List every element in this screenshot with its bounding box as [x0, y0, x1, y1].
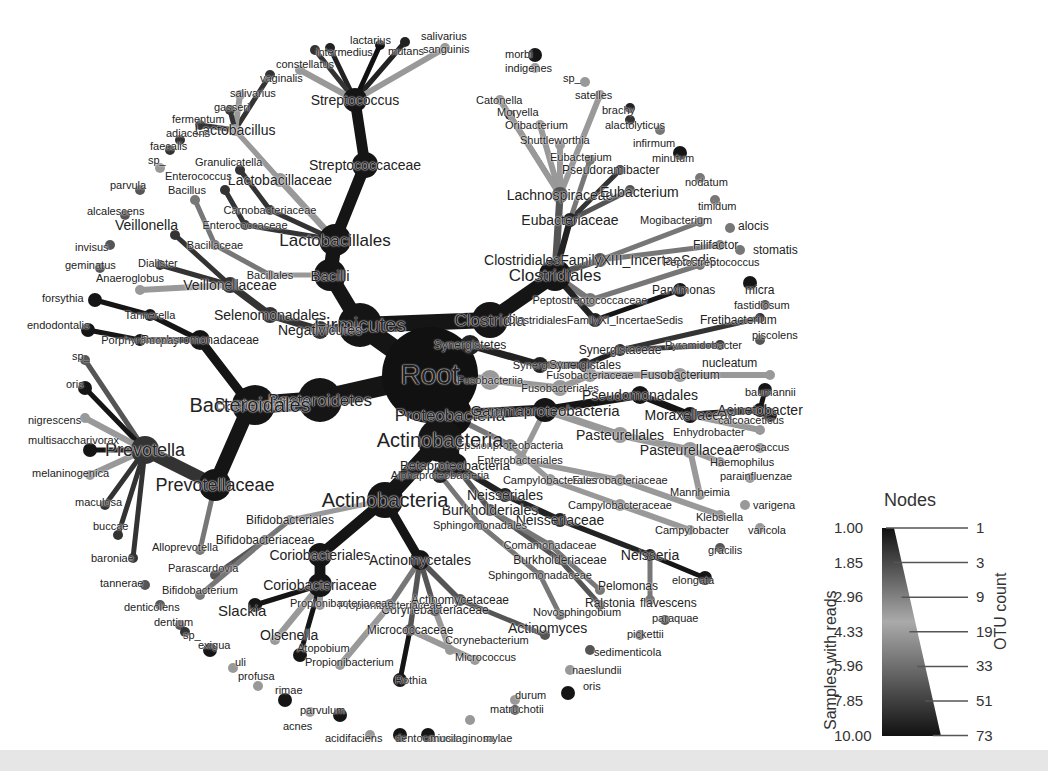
node-label: Actinobacteria — [377, 430, 504, 450]
leaf-label: acnes — [283, 721, 312, 732]
leaf-label: sp_ — [72, 351, 90, 362]
leaf-label: Olsenella — [260, 628, 318, 642]
leaf-label: infirmum — [633, 138, 675, 149]
node-label: Actinomycetales — [369, 553, 471, 567]
leaf-label: minutum — [652, 153, 694, 164]
leaf-label: Haemophilus — [710, 457, 774, 468]
node-label: Bacilli — [310, 268, 349, 283]
node-label: Sphingomonadaceae — [488, 570, 592, 581]
leaf-label: tannerae — [100, 578, 143, 589]
leaf-label: vaginalis — [260, 73, 303, 84]
leaf-label: melaninogenica — [32, 468, 109, 479]
leaf-label: Pelomonas — [598, 580, 658, 592]
node-label: Synergistaceae — [579, 344, 662, 356]
leaf-label: flavescens — [640, 597, 697, 609]
node-label: Lachnospiraceae — [507, 188, 614, 202]
leaf-label: Parvimonas — [652, 284, 715, 296]
leaf-label: fermentum — [172, 114, 225, 125]
node-label: Pseudomonadales — [582, 388, 698, 402]
node-label: Pasteurellaceae — [640, 443, 740, 457]
leaf-label: Atopobium — [297, 643, 350, 654]
leaf-label: Fretibacterium — [700, 314, 777, 326]
node-label: Lactobacillales — [279, 232, 391, 249]
leaf-label: forsythia — [42, 293, 84, 304]
leaf-label: Veillonella — [115, 218, 178, 232]
leaf-label: sp_ — [563, 73, 581, 84]
leaf-label: Bacillus — [168, 185, 206, 196]
leaf-label: sp_ — [148, 155, 166, 166]
leaf-label: mylae — [483, 733, 512, 744]
leaf-label: uli — [235, 657, 246, 668]
leaf-label: Dialister — [138, 258, 178, 269]
leaf-label: brachy — [602, 105, 635, 116]
node-label: Root — [400, 361, 459, 389]
leaf-label: baroniae — [91, 553, 134, 564]
node-label: Comamonadaceae — [504, 540, 597, 551]
legend-right-tick: 3 — [976, 554, 984, 571]
leaf-label: gasseri — [214, 102, 249, 113]
leaf-label: Micrococcus — [455, 652, 516, 663]
node-label: Alphaproteobacteria — [391, 470, 489, 481]
node-label: Burkholderiales — [442, 503, 539, 517]
legend-right-tick: 1 — [976, 519, 984, 536]
leaf-label: buccae — [93, 521, 128, 532]
leaf-label: denticolens — [124, 602, 180, 613]
node-label: Bifidobacteriales — [246, 514, 334, 526]
leaf-label: elongata — [672, 575, 714, 586]
legend-left-tick: 1.00 — [834, 519, 863, 536]
leaf-label: constellatus — [276, 59, 334, 70]
leaf-label: Propionibacterium — [305, 657, 394, 668]
leaf-label: Moryella — [497, 107, 539, 118]
leaf-label: Slackia — [218, 603, 266, 618]
leaf-label: matruchotii — [490, 704, 544, 715]
leaf-label: naeslundii — [572, 665, 622, 676]
legend-right-tick: 51 — [976, 692, 993, 709]
node-label: Neisseria — [621, 548, 679, 562]
leaf-label: acidifaciens — [325, 733, 382, 744]
node-label: Sphingomonadales — [433, 520, 527, 531]
leaf-label: calcoaceticus — [718, 415, 784, 426]
leaf-label: salivarius — [421, 31, 467, 42]
node-label: Lactobacillaceae — [228, 173, 332, 187]
leaf-label: Rothia — [395, 675, 427, 686]
leaf-label: Corynebacterium — [445, 635, 529, 646]
leaf-label: stomatis — [753, 244, 798, 256]
legend: Nodes 1.001.852.964.335.967.8510.00 1391… — [826, 480, 1048, 750]
leaf-label: timidum — [698, 201, 737, 212]
leaf-label: aerosaccus — [733, 442, 789, 453]
leaf-label: oris — [583, 681, 601, 692]
node-label: Fusobacteriia — [457, 375, 523, 386]
leaf-label: exigua — [198, 640, 230, 651]
legend-right-tick: 73 — [976, 727, 993, 744]
node-label: Prevotellaceae — [155, 476, 274, 494]
node-label: Tannerella — [125, 310, 176, 321]
leaf-label: Alloprevotella — [152, 542, 218, 553]
node-label: Micrococcaceae — [367, 624, 454, 636]
node-label: ClostridialesFamilyXI_IncertaeSedis — [507, 315, 683, 326]
node-label: Fusobacteriaceae — [546, 370, 633, 381]
leaf-label: Enterococcus — [165, 171, 232, 182]
leaf-label: Filifactor — [693, 239, 738, 251]
leaf-label: alactolyticus — [605, 120, 665, 131]
leaf-label: Ralstonia — [585, 597, 635, 609]
legend-right-axis-label: OTU count — [992, 573, 1010, 650]
leaf-label: pickettii — [627, 629, 664, 640]
node-label: Veillonellaceae — [183, 278, 276, 292]
leaf-label: Klebsiella — [696, 512, 743, 523]
leaf-label: Oribacterium — [505, 120, 568, 131]
node-label: Neisseriales — [467, 488, 543, 502]
node-label: Synergistetes — [434, 339, 507, 351]
leaf-label: Bifidobacterium — [162, 585, 238, 596]
leaf-label: multisaccharivorax — [28, 435, 119, 446]
node-label: Fusobacterium — [640, 369, 719, 381]
leaf-label: Pyramidobacter — [665, 340, 742, 351]
leaf-label: Eubacterium — [550, 152, 612, 163]
leaf-label: Shuttleworthia — [520, 135, 590, 146]
leaf-label: Anaeroglobus — [96, 273, 164, 284]
leaf-label: alcalescens — [87, 206, 144, 217]
legend-right-tick: 33 — [976, 657, 993, 674]
leaf-label: Actinomyces — [508, 621, 587, 635]
node-label: Peptostreptococcaceae — [533, 295, 648, 306]
legend-right-tick: 19 — [976, 623, 993, 640]
leaf-label: paraquae — [652, 613, 699, 624]
